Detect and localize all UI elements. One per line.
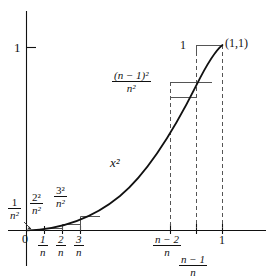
- figure-riemann-sum: 1 0 1 n 2 n 3 n n − 2 n n − 1 n 1 1 n² 2…: [0, 0, 274, 276]
- x-tick-one-over-n-den: n: [38, 246, 48, 258]
- x-tick-label-one: 1: [219, 234, 225, 246]
- x-tick-label-n-minus-1-over-n: n − 1 n: [179, 254, 207, 276]
- x-tick-two-over-n-den: n: [56, 246, 66, 258]
- x-tick-one-over-n-num: 1: [38, 234, 48, 246]
- x-tick-label-one-over-n: 1 n: [38, 234, 48, 258]
- curve-label-x-squared: x²: [110, 156, 120, 169]
- x-tick-three-over-n-num: 3: [74, 234, 84, 246]
- y-label-nine-over-n-squared-num: 3²: [54, 185, 67, 197]
- top-level-label-one: 1: [180, 39, 186, 51]
- point-label-one-one: (1,1): [225, 37, 248, 49]
- x-tick-label-n-minus-2-over-n: n − 2 n: [153, 234, 181, 258]
- y-label-one-over-n-squared-den: n²: [8, 209, 21, 221]
- x-tick-three-over-n-den: n: [74, 246, 84, 258]
- leader-arrowhead: [28, 227, 32, 230]
- y-label-four-over-n-squared-num: 2²: [30, 192, 43, 204]
- x-tick-label-zero: 0: [22, 233, 28, 245]
- x-tick-two-over-n-num: 2: [56, 234, 66, 246]
- y-label-four-over-n-squared-den: n²: [30, 204, 43, 216]
- y-label-one-over-n-squared-num: 1: [8, 197, 21, 209]
- x-tick-label-three-over-n: 3 n: [74, 234, 84, 258]
- y-label-nine-over-n-squared: 3² n²: [54, 185, 67, 209]
- dashed-guides: [171, 45, 223, 228]
- y-label-nine-over-n-squared-den: n²: [54, 197, 67, 209]
- y-label-n-minus-1-squared-num: (n − 1)²: [112, 70, 151, 82]
- x-tick-n-minus-2-num: n − 2: [153, 234, 181, 246]
- x-tick-n-minus-2-den: n: [153, 246, 181, 258]
- x-tick-n-minus-1-num: n − 1: [179, 254, 207, 266]
- y-tick-label-one: 1: [14, 41, 21, 54]
- x-tick-n-minus-1-den: n: [179, 266, 207, 276]
- x-axis-ticks: [45, 224, 223, 234]
- y-label-n-minus-1-squared-over-n-squared: (n − 1)² n²: [112, 70, 151, 94]
- y-label-four-over-n-squared: 2² n²: [30, 192, 43, 216]
- x-tick-label-two-over-n: 2 n: [56, 234, 66, 258]
- y-label-n-minus-1-squared-den: n²: [112, 82, 151, 94]
- y-label-one-over-n-squared: 1 n²: [8, 197, 21, 221]
